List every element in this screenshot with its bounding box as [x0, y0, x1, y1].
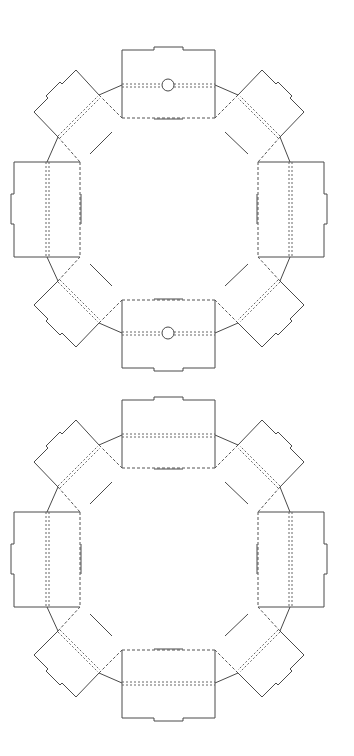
dieline-canvas: Template with holes Template without hol…: [0, 0, 354, 756]
template-without-holes: [11, 397, 327, 721]
top-hole-icon: [162, 79, 174, 91]
template-with-holes: [11, 47, 327, 371]
dieline-svg: [0, 0, 354, 756]
bottom-hole-icon: [162, 327, 174, 339]
